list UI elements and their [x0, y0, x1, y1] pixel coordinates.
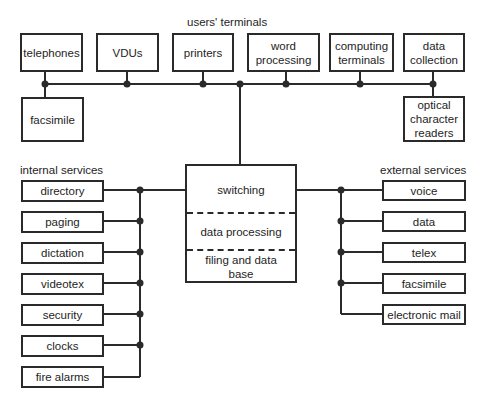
- terminal-printers: printers: [172, 33, 234, 72]
- section-filing-and-data-base: filing and data base: [187, 251, 295, 283]
- terminal-telephones: telephones: [20, 33, 83, 72]
- section-switching: switching: [187, 166, 295, 213]
- external-telex: telex: [382, 242, 466, 263]
- terminal-facsimile: facsimile: [21, 97, 84, 142]
- external-electronic-mail: electronic mail: [382, 304, 466, 325]
- external-data: data: [382, 211, 466, 232]
- internal-clocks: clocks: [21, 335, 104, 357]
- internal-services-label: internal services: [20, 164, 103, 176]
- internal-security: security: [21, 304, 104, 326]
- internal-dictation: dictation: [21, 242, 104, 264]
- terminal-word-processing: word processing: [247, 33, 320, 72]
- external-voice: voice: [382, 180, 466, 201]
- external-facsimile: facsimile: [382, 273, 466, 294]
- central-system-box: switching data processing filing and dat…: [185, 164, 297, 283]
- terminal-data-collection: data collection: [403, 33, 465, 72]
- internal-videotex: videotex: [21, 273, 104, 295]
- terminal-computing-terminals: computing terminals: [329, 33, 394, 72]
- internal-fire-alarms: fire alarms: [21, 366, 104, 388]
- internal-paging: paging: [21, 211, 104, 233]
- terminal-vdus: VDUs: [96, 33, 159, 72]
- external-services-label: external services: [380, 164, 466, 176]
- internal-directory: directory: [21, 180, 104, 202]
- terminal-optical-character-readers: optical character readers: [403, 96, 465, 142]
- section-data-processing: data processing: [187, 214, 295, 250]
- users-terminals-label: users' terminals: [187, 16, 267, 28]
